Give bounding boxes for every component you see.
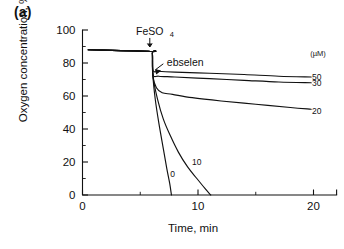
legend-title: (µM) [310,49,326,58]
annotation-feso4-subscript: 4 [170,30,174,39]
legend-label-50: 50 [312,72,322,82]
legend: (µM)203050 [310,49,326,116]
annotation-feso4-arrow [147,38,152,47]
annotation-feso4-label: FeSO [136,25,163,37]
figure-panel: (a) Oxygen concentration, % Time, min 02… [0,0,344,249]
annotation-ebselen-label: ebselen [167,56,204,68]
y-tick-label: 0 [69,189,75,201]
y-tick-label: 100 [56,24,75,36]
y-tick-label: 80 [63,57,76,69]
data-curves [88,50,311,195]
legend-label-20: 20 [312,106,322,116]
y-tick-label: 60 [63,90,76,102]
annotation-ebselen-arrow [156,64,164,74]
x-axis-ticks: 01020 [79,190,336,213]
x-tick-label: 0 [79,200,85,212]
x-tick-label: 10 [192,200,205,212]
y-axis-ticks: 020406080100 [56,24,88,201]
curve-labels: 010 [170,157,202,179]
chart-axes [83,30,337,195]
curve-label-0: 0 [170,169,175,179]
x-tick-label: 20 [307,200,320,212]
y-tick-label: 20 [63,156,76,168]
curve-label-10: 10 [192,157,202,167]
curve-10 [88,50,210,195]
chart-annotations: FeSO4ebselen [136,25,204,74]
y-tick-label: 40 [63,123,76,135]
line-chart-plot: 020406080100 01020 010 (µM)203050 FeSO4e… [0,0,344,249]
